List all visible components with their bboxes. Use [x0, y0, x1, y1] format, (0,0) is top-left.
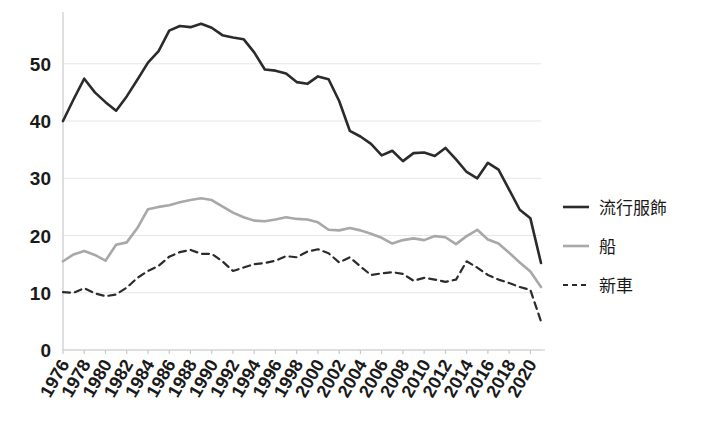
chart-container: 01020304050 1976197819801982198419861988…: [0, 0, 705, 421]
y-tick-label-30: 30: [30, 168, 51, 189]
y-tick-label-0: 0: [40, 340, 51, 361]
y-tick-label-10: 10: [30, 283, 51, 304]
line-chart: 01020304050 1976197819801982198419861988…: [0, 0, 705, 421]
y-tick-label-20: 20: [30, 226, 51, 247]
legend-label-2: 新車: [599, 277, 633, 296]
legend-label-0: 流行服飾: [599, 199, 667, 218]
y-tick-label-40: 40: [30, 111, 51, 132]
y-tick-label-50: 50: [30, 54, 51, 75]
legend-label-1: 船: [599, 238, 616, 257]
